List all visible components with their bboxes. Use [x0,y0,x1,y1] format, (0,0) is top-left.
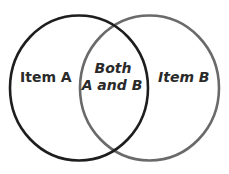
label-both-line1: Both [95,60,132,76]
label-both-line2: A and B [81,77,143,93]
venn-diagram: Item A Item B Both A and B [0,0,229,174]
label-item-a: Item A [20,69,72,85]
label-item-b: Item B [158,69,210,85]
